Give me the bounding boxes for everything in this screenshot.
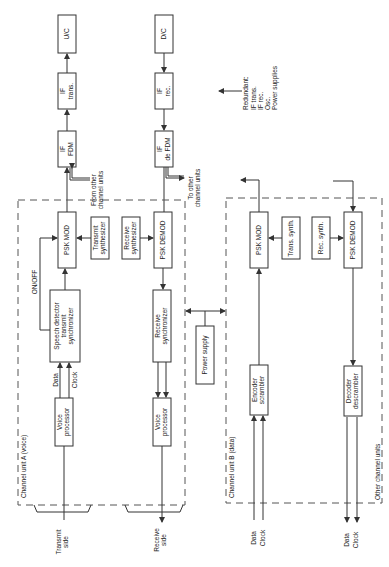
diagram-canvas: U/C IF trans. IF FDM From other channel …: [0, 0, 389, 567]
svg-text:D/C: D/C: [160, 28, 167, 40]
svg-text:FDM: FDM: [67, 142, 74, 156]
svg-text:Voice: Voice: [154, 414, 161, 430]
svg-text:IF: IF: [59, 146, 66, 152]
svg-text:Channel unit A (voice): Channel unit A (voice): [20, 435, 28, 498]
svg-text:descrambler: descrambler: [352, 372, 359, 409]
svg-text:trans.: trans.: [67, 83, 74, 99]
svg-text:channel units: channel units: [97, 170, 104, 209]
svg-text:Rec. synth.: Rec. synth.: [317, 222, 325, 255]
svg-text:Data: Data: [52, 373, 59, 387]
svg-text:synchronizer: synchronizer: [67, 307, 75, 345]
svg-text:Power supply: Power supply: [201, 335, 209, 375]
svg-text:Trans. synth.: Trans. synth.: [287, 219, 295, 257]
svg-text:de FDM: de FDM: [164, 137, 171, 160]
svg-text:Encoder: Encoder: [251, 377, 258, 402]
svg-text:Osc.: Osc.: [264, 96, 271, 110]
svg-text:transmit: transmit: [60, 314, 67, 337]
svg-text:Receive: Receive: [153, 528, 160, 552]
svg-text:PSK DEMOD: PSK DEMOD: [159, 220, 166, 259]
svg-text:To other: To other: [187, 175, 194, 199]
svg-text:Receive: Receive: [123, 226, 130, 250]
svg-text:From other: From other: [90, 173, 97, 206]
svg-text:synchronizer: synchronizer: [161, 307, 169, 345]
svg-text:Clock: Clock: [352, 531, 359, 548]
svg-text:Power supplies: Power supplies: [271, 65, 279, 110]
svg-text:Data: Data: [343, 533, 350, 547]
svg-text:PSK DEMOD: PSK DEMOD: [349, 220, 356, 259]
svg-text:IF: IF: [156, 146, 163, 152]
svg-text:channel units: channel units: [194, 168, 201, 207]
svg-text:IF: IF: [156, 88, 163, 94]
svg-text:synthesizer: synthesizer: [130, 221, 138, 255]
svg-text:Receive: Receive: [154, 314, 161, 338]
svg-text:Voice: Voice: [56, 414, 63, 430]
svg-text:Redundant:: Redundant:: [242, 76, 249, 110]
svg-text:Clock: Clock: [71, 371, 78, 388]
svg-text:Channel unit B (data): Channel unit B (data): [228, 437, 236, 498]
svg-text:processor: processor: [63, 407, 71, 436]
svg-text:side: side: [160, 534, 167, 546]
svg-text:Clock: Clock: [259, 529, 266, 546]
svg-text:PSK MOD: PSK MOD: [255, 225, 262, 255]
svg-text:processor: processor: [161, 407, 169, 436]
svg-text:Other channel units: Other channel units: [374, 443, 381, 500]
svg-text:synthesizer: synthesizer: [99, 221, 107, 255]
svg-text:side: side: [62, 536, 69, 548]
svg-text:Transmit: Transmit: [55, 529, 62, 554]
svg-text:rec.: rec.: [164, 85, 171, 96]
svg-text:IF: IF: [59, 88, 66, 94]
svg-text:PSK MOD: PSK MOD: [63, 225, 70, 255]
svg-text:Decoder: Decoder: [345, 378, 352, 403]
svg-text:scrambler: scrambler: [258, 375, 265, 404]
svg-text:ON/OFF: ON/OFF: [31, 270, 38, 295]
svg-text:Data: Data: [250, 531, 257, 545]
svg-text:IF rec.: IF rec.: [257, 91, 264, 110]
diagram-lines: U/C IF trans. IF FDM From other channel …: [0, 0, 389, 567]
svg-text:Transmit: Transmit: [92, 225, 99, 250]
svg-text:IF trans.: IF trans.: [250, 86, 257, 110]
uc-label: U/C: [63, 28, 70, 40]
